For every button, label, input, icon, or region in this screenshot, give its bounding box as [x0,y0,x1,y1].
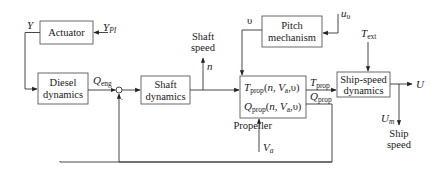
diesel-dynamics-block: Diesel dynamics [38,73,88,104]
n-label: n [207,60,213,72]
propeller-block: Tprop(n, Va,υ) Qprop(n, Va,υ) Propeller [234,76,307,131]
summing-junction [116,87,122,93]
shaft-label-line1: Shaft [154,79,176,90]
actuator-label: Actuator [48,27,85,38]
ship-speed-output-line2: speed [387,139,412,150]
propeller-label: Propeller [234,120,273,131]
sum-minus-sign: - [121,96,123,102]
q-prop-label: Qprop [310,90,332,104]
q-eng-label: Qeng [93,74,112,88]
upsilon-signal-line [242,30,262,75]
shaft-speed-line1: Shaft [192,31,214,42]
shaft-dynamics-block: Shaft dynamics [141,76,190,104]
propulsion-block-diagram: Actuator YPI Y Diesel dynamics Qeng - Sh… [0,0,446,171]
u-upsilon-label: uυ [341,7,351,21]
y-label: Y [27,19,35,31]
pitch-mechanism-block: Pitch mechanism [262,16,322,47]
y-pi-label: YPI [103,21,117,35]
u-output-label: U [416,78,425,90]
shaft-speed-line2: speed [191,42,216,53]
upsilon-label: υ [247,15,252,26]
u-m-label: Um [381,112,395,126]
pitch-label-line1: Pitch [281,20,303,31]
pitch-label-line2: mechanism [268,32,316,43]
ship-speed-output-line1: Ship [389,128,408,139]
diesel-label-line2: dynamics [43,89,83,100]
diesel-label-line1: Diesel [50,77,77,88]
ship-speed-label-line2: dynamics [343,85,383,96]
t-ext-label: Text [361,27,377,41]
ship-speed-dynamics-block: Ship-speed dynamics [337,72,390,97]
actuator-block: Actuator [40,21,93,44]
shaft-label-line2: dynamics [145,91,185,102]
ship-speed-label-line1: Ship-speed [340,74,387,85]
u-upsilon-arrow [323,14,338,33]
v-a-label: Va [263,141,274,155]
t-prop-label: Tprop [310,76,330,90]
